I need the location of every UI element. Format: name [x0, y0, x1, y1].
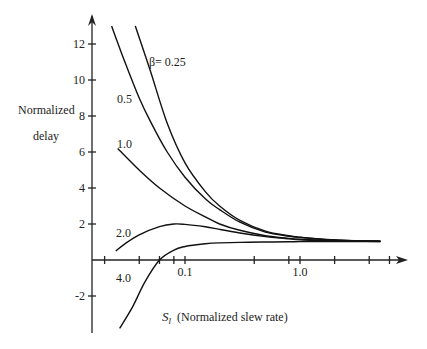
curve-label-2.0: 2.0	[116, 226, 131, 240]
labels: Normalized delay Sl(Normalized slew rate…	[18, 55, 288, 326]
x-axis-text: (Normalized slew rate)	[177, 310, 288, 324]
curve-label-0.5: 0.5	[117, 92, 132, 106]
x-tick-label: 1.0	[293, 265, 308, 279]
curve-beta-2.0	[116, 224, 381, 251]
chart: -224681012 0.11.0 Normalized delay Sl(No…	[0, 0, 427, 349]
y-tick-label: -2	[75, 289, 85, 303]
y-tick-label: 4	[79, 181, 85, 195]
y-tick-label: 6	[79, 145, 85, 159]
x-axis-title: Sl(Normalized slew rate)	[162, 309, 288, 326]
y-axis-title-line2: delay	[33, 129, 59, 143]
curve-label-1.0: 1.0	[117, 137, 132, 151]
y-tick-label: 2	[79, 217, 85, 231]
curve-label-4.0: 4.0	[116, 271, 131, 285]
y-tick-label: 12	[73, 37, 85, 51]
y-tick-label: 10	[73, 73, 85, 87]
x-tick-label: 0.1	[178, 265, 193, 279]
axes	[88, 14, 408, 333]
x-axis-subscript: l	[169, 316, 172, 326]
y-tick-label: 8	[79, 109, 85, 123]
curves	[112, 26, 381, 328]
curve-label-0.25: β= 0.25	[149, 55, 186, 69]
y-axis-title-line1: Normalized	[18, 103, 75, 117]
